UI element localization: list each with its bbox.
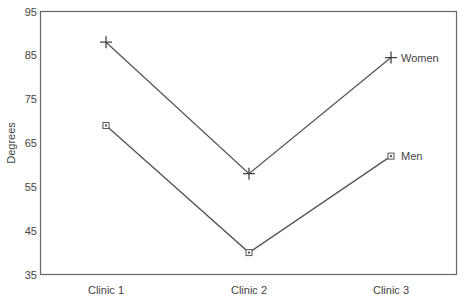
y-tick-label: 35 xyxy=(25,269,37,281)
square-marker-dot xyxy=(105,124,107,126)
x-axis-ticks: Clinic 1Clinic 2Clinic 3 xyxy=(88,284,409,296)
y-tick-label: 55 xyxy=(25,181,37,193)
plot-frame xyxy=(41,12,457,275)
y-tick-label: 75 xyxy=(25,93,37,105)
square-marker-dot xyxy=(248,252,250,254)
y-tick-label: 95 xyxy=(25,6,37,18)
x-tick-label: Clinic 1 xyxy=(88,284,124,296)
y-tick-label: 65 xyxy=(25,137,37,149)
series-line xyxy=(106,125,391,252)
square-marker-dot xyxy=(390,155,392,157)
x-tick-label: Clinic 3 xyxy=(373,284,409,296)
y-axis-ticks: 35455565758595 xyxy=(25,6,37,281)
x-tick-label: Clinic 2 xyxy=(231,284,267,296)
series-label: Women xyxy=(401,52,439,64)
y-tick-label: 85 xyxy=(25,49,37,61)
series-label: Men xyxy=(401,150,422,162)
line-chart: 35455565758595 Clinic 1Clinic 2Clinic 3 … xyxy=(0,0,464,304)
y-axis-label: Degrees xyxy=(5,122,17,164)
series-men: Men xyxy=(103,122,422,255)
y-tick-label: 45 xyxy=(25,225,37,237)
series-group: WomenMen xyxy=(100,36,439,255)
series-line xyxy=(106,42,391,174)
